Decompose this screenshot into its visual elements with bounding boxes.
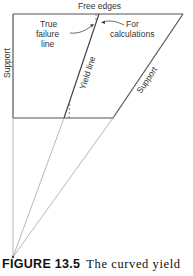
- label-true-failure-line-2: failure: [36, 29, 59, 39]
- figure-number: FIGURE 13.5: [2, 257, 80, 271]
- label-yield-line: Yield line: [77, 55, 97, 91]
- label-for-calculations-2: calculations: [110, 29, 154, 39]
- figure-caption-text: The curved yield: [86, 257, 180, 271]
- true-failure-leader-arrow: [70, 25, 93, 33]
- for-calculations-leader-arrow: [103, 21, 124, 25]
- yield-line-diagram: Free edges True failure line For calcula…: [0, 0, 193, 276]
- label-support-left: Support: [2, 48, 12, 78]
- figure-caption: FIGURE 13.5The curved yield: [2, 257, 181, 272]
- label-free-edges: Free edges: [78, 1, 121, 11]
- label-for-calculations-1: For: [126, 19, 139, 29]
- label-true-failure-line-3: line: [41, 39, 55, 49]
- for-calculations-arrowhead: [101, 21, 105, 25]
- construction-line-right: [13, 118, 113, 257]
- label-true-failure-line-1: True: [40, 19, 57, 29]
- construction-line-middle: [13, 118, 64, 257]
